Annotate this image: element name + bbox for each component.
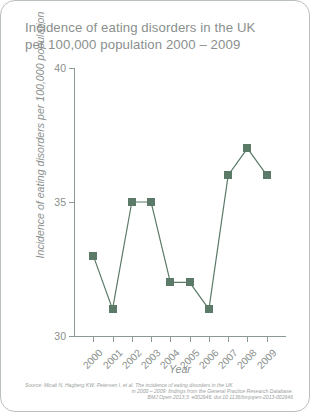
x-tick — [170, 336, 171, 342]
x-tick — [151, 336, 152, 342]
x-tick — [113, 336, 114, 342]
y-tick-label: 40 — [54, 62, 66, 74]
y-tick-label: 35 — [54, 196, 66, 208]
x-axis-line — [74, 336, 286, 337]
data-point — [109, 305, 117, 313]
data-point — [166, 278, 174, 286]
x-tick — [132, 336, 133, 342]
source-line-3: BMJ Open 2013;3: e002646. doi:10.1136/bm… — [25, 394, 293, 400]
data-point — [186, 278, 194, 286]
page-title: Incidence of eating disorders in the UK … — [25, 20, 291, 53]
chart-card: Incidence of eating disorders in the UK … — [0, 0, 310, 412]
data-point — [89, 252, 97, 260]
x-tick — [190, 336, 191, 342]
x-tick — [93, 336, 94, 342]
data-point — [205, 305, 213, 313]
x-tick — [247, 336, 248, 342]
series-line — [74, 68, 286, 336]
plot-area: 303540 200020012002200320042005200620072… — [74, 68, 286, 336]
x-axis-title: Year — [74, 363, 286, 375]
x-tick — [209, 336, 210, 342]
y-tick-label: 30 — [54, 330, 66, 342]
x-tick — [267, 336, 268, 342]
data-point — [224, 171, 232, 179]
data-point — [243, 144, 251, 152]
x-tick — [228, 336, 229, 342]
data-point — [128, 198, 136, 206]
data-point — [263, 171, 271, 179]
data-point — [147, 198, 155, 206]
y-tick — [69, 336, 74, 337]
y-axis-title: Incidence of eating disorders per 100,00… — [34, 1, 46, 269]
source-citation: Source: Micali N, Hagberg KW, Petersen I… — [25, 382, 293, 401]
